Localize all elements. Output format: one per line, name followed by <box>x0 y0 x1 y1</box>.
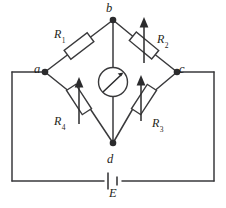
node-dot-a <box>42 69 49 76</box>
node-label-d: d <box>107 153 113 166</box>
wire-a-r1 <box>45 55 68 73</box>
node-dot-b <box>110 17 117 24</box>
wire-a-r4 <box>45 72 68 91</box>
node-label-b: b <box>106 2 112 15</box>
source-label-e: E <box>109 187 117 200</box>
node-label-c: c <box>179 63 185 76</box>
node-label-a: a <box>34 63 40 76</box>
resistor-r2 <box>129 17 158 63</box>
resistor-r4 <box>66 77 91 124</box>
resistor-label-r4: R4 <box>54 115 65 130</box>
resistor-label-r1-base: R <box>54 27 61 41</box>
resistor-r3 <box>131 75 156 121</box>
r2-adjust-arrow-head-icon <box>140 17 149 28</box>
wire-c-r3 <box>155 72 177 91</box>
resistor-label-r4-sub: 4 <box>62 123 66 132</box>
resistor-label-r3-sub: 3 <box>160 125 164 134</box>
resistor-label-r2-sub: 2 <box>165 41 169 50</box>
wire-r3-d <box>113 109 133 144</box>
resistor-label-r1: R1 <box>54 28 65 43</box>
wire-r2-c <box>155 55 177 73</box>
resistor-label-r3-base: R <box>152 116 159 130</box>
wire-b-r2 <box>113 20 133 37</box>
wire-r4-d <box>90 109 113 144</box>
resistor-label-r1-sub: 1 <box>62 36 66 45</box>
resistor-label-r4-base: R <box>54 114 61 128</box>
resistor-label-r2: R2 <box>157 33 168 48</box>
resistor-r1 <box>64 33 94 59</box>
circuit-diagram: b a c d R1 R2 R3 R4 E <box>0 0 226 208</box>
wire-r1-b <box>90 20 113 38</box>
node-dot-d <box>110 140 117 147</box>
r3-adjust-arrow-head-icon <box>137 75 146 86</box>
resistor-label-r3: R3 <box>152 117 163 132</box>
circuit-schematic-svg <box>0 0 226 208</box>
r4-adjust-arrow-head-icon <box>75 77 84 88</box>
resistor-label-r2-base: R <box>157 32 164 46</box>
